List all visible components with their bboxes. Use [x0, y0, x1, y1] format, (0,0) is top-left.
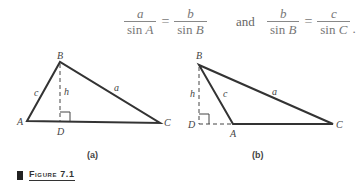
- height-h-label: h: [64, 86, 69, 97]
- vertex-C-label: C: [336, 119, 343, 130]
- figure-caption: Figure 7.1: [17, 169, 75, 181]
- vertex-D-label: D: [56, 126, 65, 137]
- side-a-label: a: [272, 86, 277, 97]
- side-a-label: a: [114, 82, 119, 93]
- vertex-C-label: C: [164, 117, 171, 128]
- triangle-b: B D A C h c a: [187, 50, 343, 139]
- side-c-label: c: [34, 87, 39, 98]
- vertex-B-label: B: [57, 50, 63, 61]
- caption-square-icon: [17, 171, 23, 180]
- right-angle-mark: [60, 112, 70, 121]
- vertex-B-label: B: [196, 50, 202, 61]
- caption-text: Figure 7.1: [29, 169, 75, 181]
- side-c-label: c: [223, 88, 228, 99]
- subfigure-b-label: (b): [252, 150, 264, 160]
- height-h-label: h: [190, 88, 195, 99]
- triangle-a: B A D C c h a: [16, 50, 171, 137]
- subfigure-a-label: (a): [87, 150, 98, 160]
- vertex-A-label: A: [16, 116, 24, 127]
- vertex-A-label: A: [229, 128, 237, 139]
- right-angle-mark: [199, 114, 209, 124]
- vertex-D-label: D: [187, 119, 196, 130]
- triangle-figures: B A D C c h a B D A C h c a: [0, 0, 362, 194]
